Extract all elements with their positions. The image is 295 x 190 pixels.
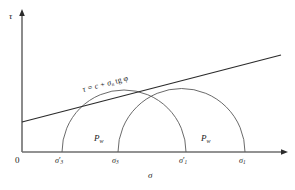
origin-label: 0 xyxy=(15,156,20,165)
failure-envelope-line xyxy=(22,55,281,122)
tick-sub-sigma1-eff: 1 xyxy=(185,159,188,165)
tick-sub-sigma3: 3 xyxy=(116,159,119,165)
pw-right-sub: w xyxy=(207,138,211,144)
y-axis-arrow-icon xyxy=(19,9,25,16)
tick-label-sigma1: σ1 xyxy=(239,157,246,166)
annotation-pw-right: Pw xyxy=(201,134,210,145)
tick-label-sigma3-eff: σ′3 xyxy=(55,157,63,166)
annotation-pw-left: Pw xyxy=(94,134,103,145)
figure-canvas xyxy=(0,0,295,190)
y-axis-label: τ xyxy=(9,12,12,21)
mohr-circle-total xyxy=(118,89,245,153)
tick-sub-sigma1: 1 xyxy=(243,159,246,165)
mohr-circle-effective xyxy=(62,90,186,152)
x-axis-arrow-icon xyxy=(281,149,288,154)
mohr-coulomb-figure: τ σ 0 σ′3 σ3 σ′1 σ1 Pw Pw τ = c + σntg φ xyxy=(0,0,295,190)
pw-left-sub: w xyxy=(100,138,104,144)
tick-label-sigma1-eff: σ′1 xyxy=(179,157,187,166)
tick-sub-sigma3-eff: 3 xyxy=(61,159,64,165)
tick-label-sigma3: σ3 xyxy=(112,157,119,166)
y-axis xyxy=(19,9,25,152)
x-axis-label: σ xyxy=(148,171,152,180)
